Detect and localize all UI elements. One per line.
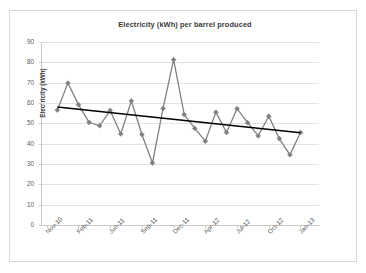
y-tick-label: 30 [8,160,34,167]
y-tick-label: 80 [8,58,34,65]
data-point-marker [118,132,123,137]
y-tick-label: 60 [8,99,34,106]
y-tick-label: 0 [8,221,34,228]
y-tick-label: 50 [8,119,34,126]
data-point-marker [150,161,155,166]
chart-title: Electricity (kWh) per barrel produced [60,20,310,29]
plot-area: Electricity (kWh) [41,42,319,226]
y-tick-label: 70 [8,79,34,86]
data-point-marker [66,81,71,86]
data-point-marker [161,106,166,111]
y-tick-label: 10 [8,201,34,208]
chart-figure: Electricity (kWh) per barrel produced El… [0,0,366,273]
trendline [57,107,300,133]
data-point-marker [129,99,134,104]
data-point-marker [55,108,60,113]
data-point-marker [171,57,176,62]
data-point-marker [224,130,229,135]
data-point-marker [266,114,271,119]
y-tick-label: 20 [8,180,34,187]
data-point-marker [214,110,219,115]
series-canvas [42,42,319,225]
data-point-marker [140,132,145,137]
y-tick-label: 40 [8,140,34,147]
y-tick-label: 90 [8,38,34,45]
y-tick-mark [39,225,42,226]
